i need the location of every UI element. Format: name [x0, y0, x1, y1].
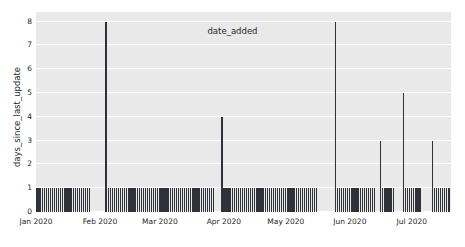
bar	[209, 188, 210, 212]
gridline	[36, 68, 451, 69]
bar	[293, 188, 294, 212]
x-tick-label: Jul 2020	[397, 217, 428, 226]
x-tick-label: Jun 2020	[333, 217, 366, 226]
bar	[339, 188, 340, 212]
bar	[163, 188, 164, 212]
x-tick-label: Jan 2020	[19, 217, 52, 226]
y-tick-label: 8	[27, 18, 32, 26]
x-tick-label: Feb 2020	[83, 217, 118, 226]
bar	[194, 188, 195, 212]
bar	[180, 188, 181, 212]
bar	[137, 188, 138, 212]
bar	[370, 188, 371, 212]
y-tick-label: 6	[27, 65, 32, 73]
bar	[411, 188, 412, 212]
y-tick-label: 3	[27, 137, 32, 145]
bar	[145, 188, 146, 212]
bar	[182, 188, 183, 212]
bar	[39, 188, 40, 212]
bar	[178, 188, 179, 212]
gridline	[36, 140, 451, 141]
bar	[188, 188, 189, 212]
bar	[155, 188, 156, 212]
bar	[192, 188, 193, 212]
bar	[110, 188, 111, 212]
bar	[141, 188, 142, 212]
bar	[134, 188, 135, 212]
bar	[205, 188, 206, 212]
bar	[393, 188, 394, 212]
bar	[44, 188, 45, 212]
bar	[415, 188, 416, 212]
bar	[196, 188, 197, 212]
bar	[446, 188, 447, 212]
bar	[186, 188, 187, 212]
bar	[50, 188, 51, 212]
bar	[252, 188, 253, 212]
bar	[271, 188, 272, 212]
bar	[448, 188, 449, 212]
bar	[273, 188, 274, 212]
bar	[444, 188, 445, 212]
bar	[355, 188, 356, 212]
bar	[174, 188, 175, 212]
bar	[225, 188, 226, 212]
bar	[58, 188, 59, 212]
bar	[337, 188, 338, 212]
bar	[64, 188, 65, 212]
plot-area	[36, 12, 451, 212]
bar	[120, 188, 121, 212]
bar	[149, 188, 150, 212]
bar	[269, 188, 270, 212]
bar	[349, 188, 350, 212]
bar	[287, 188, 288, 212]
bar	[37, 188, 38, 212]
bar	[345, 188, 346, 212]
bar	[124, 188, 125, 212]
bar	[308, 188, 309, 212]
bar	[126, 188, 127, 212]
bar	[250, 188, 251, 212]
bar	[227, 188, 228, 212]
bar	[304, 188, 305, 212]
bar	[170, 188, 171, 212]
bar	[130, 188, 131, 212]
bar	[246, 188, 247, 212]
chart-figure: 012345678 days_since_last_update Jan 202…	[0, 0, 465, 247]
bar	[139, 188, 140, 212]
bar	[66, 188, 67, 212]
x-axis-title: date_added	[0, 26, 465, 36]
bar	[236, 188, 237, 212]
bar	[341, 188, 342, 212]
bar	[347, 188, 348, 212]
bar	[310, 188, 311, 212]
bar	[388, 188, 389, 212]
bar	[151, 188, 152, 212]
bar	[105, 22, 106, 212]
bar	[417, 188, 418, 212]
bar	[440, 188, 441, 212]
bar	[73, 188, 74, 212]
bar	[114, 188, 115, 212]
bar	[83, 188, 84, 212]
bar	[353, 188, 354, 212]
bar	[116, 188, 117, 212]
bar	[283, 188, 284, 212]
bar	[62, 188, 63, 212]
gridline	[36, 116, 451, 117]
bar	[405, 188, 406, 212]
bar	[201, 188, 202, 212]
bar	[223, 188, 224, 212]
bar	[118, 188, 119, 212]
bar	[68, 188, 69, 212]
y-tick-label: 7	[27, 41, 32, 49]
bar	[351, 188, 352, 212]
bar	[335, 22, 336, 212]
gridline	[36, 21, 451, 22]
bar	[159, 188, 160, 212]
bar	[244, 188, 245, 212]
bar	[48, 188, 49, 212]
bar	[161, 188, 162, 212]
bar	[436, 188, 437, 212]
bar	[56, 188, 57, 212]
